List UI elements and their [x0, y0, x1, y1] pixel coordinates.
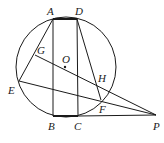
segment-ae — [19, 19, 53, 81]
label-p: P — [152, 120, 160, 132]
geometry-diagram: A D G O H E F B C P — [0, 0, 164, 143]
label-a: A — [46, 5, 54, 17]
label-b: B — [48, 120, 55, 132]
label-o: O — [62, 53, 70, 65]
label-f: F — [98, 103, 106, 115]
segment-cp — [78, 115, 156, 116]
segment-dc — [77, 19, 78, 116]
segment-df — [77, 19, 101, 100]
label-h: H — [97, 72, 107, 84]
diagram-svg: A D G O H E F B C P — [0, 0, 164, 143]
label-g: G — [37, 44, 45, 56]
label-e: E — [7, 84, 15, 96]
label-c: C — [74, 120, 82, 132]
label-d: D — [74, 5, 83, 17]
center-dot-o — [64, 66, 66, 68]
